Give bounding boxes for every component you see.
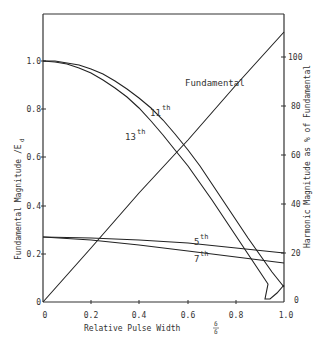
fundamental-curve [43, 32, 284, 302]
right-tick-0: 0 [294, 296, 299, 305]
fundamental-label: Fundamental [185, 78, 245, 88]
svg-text:δ: δ [214, 328, 218, 335]
svg-text:Fundamental Magnitude /E: Fundamental Magnitude /E [14, 144, 23, 260]
svg-text:13: 13 [125, 132, 136, 142]
label-13th: 13 th [125, 128, 145, 142]
x-tick-2: 0.4 [132, 311, 147, 320]
svg-text:Relative Pulse Width: Relative Pulse Width [84, 324, 181, 333]
label-11th: 11 th [150, 104, 170, 118]
left-tick-3: 0.6 [27, 153, 42, 162]
harmonic-7th-curve [43, 237, 284, 263]
harmonic-13th-curve [43, 61, 284, 299]
svg-text:5: 5 [194, 237, 199, 247]
left-axis-title: Fundamental Magnitude /E d [14, 138, 25, 260]
svg-text:th: th [200, 250, 208, 258]
right-tick-3: 60 [291, 151, 301, 160]
svg-text:11: 11 [150, 108, 161, 118]
right-tick-labels: 0 20 40 60 80 100 [288, 53, 303, 305]
svg-text:th: th [200, 233, 208, 241]
x-tick-1: 0.2 [84, 311, 99, 320]
left-tick-2: 0.4 [27, 202, 42, 211]
left-tick-labels: 0 0.2 0.4 0.6 0.8 1.0 [27, 57, 42, 307]
svg-text:7: 7 [194, 254, 199, 264]
right-axis-title: Harmonic Magnitude as % of Fundamental [303, 65, 312, 248]
chart: 0 0.2 0.4 0.6 0.8 1.0 0 0.2 0.4 0.6 0.8 … [0, 0, 325, 345]
svg-text:Harmonic Magnitude as % of Fun: Harmonic Magnitude as % of Fundamental [303, 65, 312, 248]
right-tick-1: 20 [291, 249, 301, 258]
svg-text:δ: δ [214, 320, 218, 327]
right-tick-4: 80 [291, 102, 301, 111]
x-tick-5: 1.0 [279, 311, 294, 320]
svg-text:th: th [162, 104, 170, 112]
left-tick-5: 1.0 [27, 57, 42, 66]
left-tick-0: 0 [36, 298, 41, 307]
x-tick-3: 0.6 [181, 311, 196, 320]
x-axis-title: Relative Pulse Width δ δ [84, 320, 219, 335]
right-tick-2: 40 [291, 200, 301, 209]
left-tick-4: 0.8 [27, 105, 42, 114]
x-tick-0: 0 [43, 311, 48, 320]
svg-text:th: th [137, 128, 145, 136]
x-tick-labels: 0 0.2 0.4 0.6 0.8 1.0 [43, 311, 294, 320]
svg-text:d: d [18, 138, 25, 142]
x-tick-4: 0.8 [229, 311, 244, 320]
left-tick-1: 0.2 [27, 250, 42, 259]
right-tick-5: 100 [288, 53, 303, 62]
